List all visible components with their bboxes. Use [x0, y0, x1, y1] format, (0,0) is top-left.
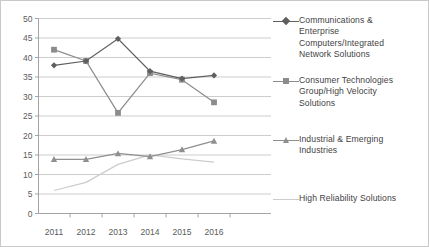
line-chart: 0510152025303540455020112012201320142015… [0, 0, 429, 247]
data-point-marker [51, 47, 57, 53]
legend-marker-triangle-icon [273, 135, 299, 146]
x-tick-label: 2015 [173, 227, 192, 237]
legend-marker-line-icon [273, 194, 299, 205]
y-tick-label: 10 [23, 170, 33, 180]
legend-label: Industrial & Emerging Industries [299, 134, 383, 157]
data-point-marker [211, 99, 217, 105]
data-point-marker [211, 72, 217, 78]
y-tick-label: 45 [23, 33, 33, 43]
legend-item-high-reliability[interactable]: High Reliability Solutions [273, 193, 396, 205]
data-point-marker [115, 110, 121, 116]
y-tick-label: 0 [28, 209, 33, 219]
y-tick-label: 15 [23, 150, 33, 160]
series-line [54, 50, 214, 113]
legend-item-communications[interactable]: Communications & Enterprise Computers/In… [273, 15, 384, 61]
legend-item-industrial-emerging[interactable]: Industrial & Emerging Industries [273, 134, 383, 157]
y-tick-label: 40 [23, 53, 33, 63]
legend-label: High Reliability Solutions [299, 193, 396, 204]
y-tick-label: 20 [23, 131, 33, 141]
x-tick-label: 2011 [45, 227, 64, 237]
x-tick-label: 2014 [141, 227, 160, 237]
x-tick-label: 2013 [109, 227, 128, 237]
y-tick-label: 25 [23, 111, 33, 121]
legend-label: Communications & Enterprise Computers/In… [299, 15, 384, 61]
x-tick-label: 2016 [205, 227, 224, 237]
chart-legend: Communications & Enterprise Computers/In… [273, 7, 425, 239]
series-line [54, 141, 214, 159]
y-tick-label: 50 [23, 14, 33, 24]
legend-label: Consumer Technologies Group/High Velocit… [299, 75, 393, 109]
legend-marker-diamond-icon [273, 16, 299, 27]
data-point-marker [51, 62, 57, 68]
y-tick-label: 5 [28, 189, 33, 199]
y-tick-label: 35 [23, 72, 33, 82]
legend-marker-square-icon [273, 76, 299, 87]
series-line [54, 155, 214, 190]
y-tick-label: 30 [23, 92, 33, 102]
data-point-marker [211, 138, 217, 144]
x-tick-label: 2012 [77, 227, 96, 237]
legend-item-consumer-technologies[interactable]: Consumer Technologies Group/High Velocit… [273, 75, 393, 109]
